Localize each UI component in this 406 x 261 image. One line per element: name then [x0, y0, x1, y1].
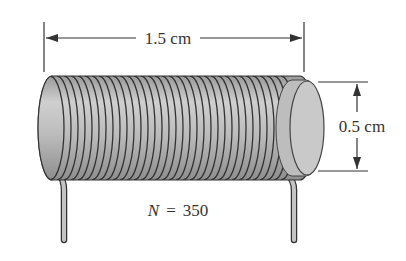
turns-equals: =	[166, 201, 176, 220]
length-dimension: 1.5 cm	[44, 22, 304, 72]
turns-symbol: N	[147, 201, 161, 220]
solenoid-diagram: 1.5 cm	[0, 0, 406, 261]
left-lead-wire	[58, 172, 64, 240]
core-end-cap	[290, 81, 324, 175]
length-label: 1.5 cm	[145, 29, 191, 48]
turns-value: 350	[183, 201, 209, 220]
right-lead-wire	[286, 172, 294, 240]
turns-label: N = 350	[147, 201, 208, 220]
coil-body	[38, 76, 324, 180]
diameter-dimension: 0.5 cm	[318, 82, 385, 171]
diameter-label: 0.5 cm	[339, 117, 385, 136]
